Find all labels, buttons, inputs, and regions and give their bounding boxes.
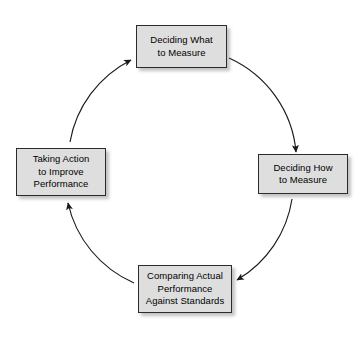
node-label: Comparing Actual Performance Against Sta… (143, 270, 227, 308)
cycle-diagram: Deciding What to Measure Deciding How to… (0, 0, 362, 337)
connector-bottom-to-left (68, 203, 134, 283)
connector-right-to-bottom (237, 199, 292, 280)
node-comparing-actual-performance[interactable]: Comparing Actual Performance Against Sta… (138, 265, 232, 313)
node-label: Taking Action to Improve Performance (30, 153, 93, 191)
node-deciding-how-to-measure[interactable]: Deciding How to Measure (258, 154, 348, 194)
connector-left-to-top (70, 60, 131, 142)
node-deciding-what-to-measure[interactable]: Deciding What to Measure (136, 25, 227, 68)
node-label: Deciding How to Measure (270, 162, 335, 187)
node-taking-action-to-improve[interactable]: Taking Action to Improve Performance (16, 148, 106, 196)
connector-top-to-right (229, 58, 296, 152)
node-label: Deciding What to Measure (147, 34, 215, 59)
